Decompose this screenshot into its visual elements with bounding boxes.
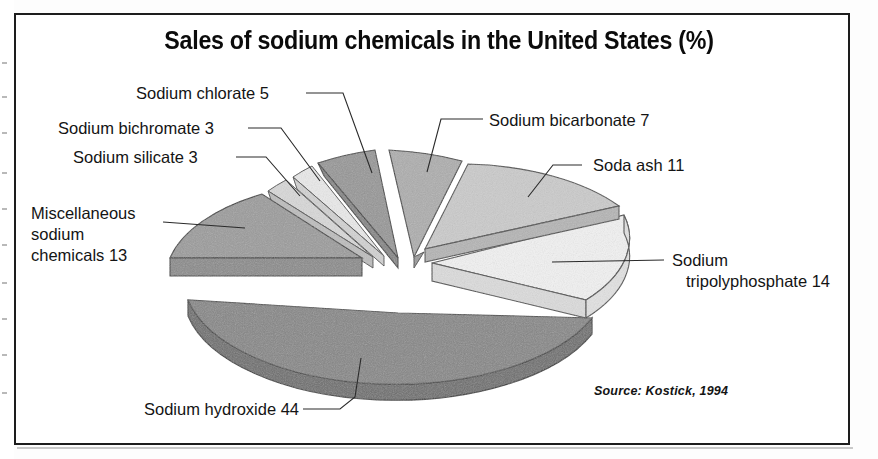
- slice-sodium-hydroxide[interactable]: [188, 300, 592, 400]
- label-soda-ash: Soda ash 11: [593, 155, 684, 175]
- pie-chart: [0, 0, 878, 459]
- label-sodium-tripolyphosphate-line1: Sodium: [672, 250, 728, 270]
- label-miscellaneous-line2: sodium: [31, 224, 84, 244]
- label-sodium-silicate: Sodium silicate 3: [73, 147, 198, 167]
- label-sodium-tripolyphosphate-line2: tripolyphosphate 14: [686, 271, 830, 291]
- label-sodium-hydroxide: Sodium hydroxide 44: [144, 399, 299, 419]
- label-miscellaneous-line1: Miscellaneous: [31, 203, 136, 223]
- label-sodium-bichromate: Sodium bichromate 3: [58, 118, 214, 138]
- label-miscellaneous-line3: chemicals 13: [31, 245, 127, 265]
- label-sodium-bicarbonate: Sodium bicarbonate 7: [489, 110, 650, 130]
- label-sodium-chlorate: Sodium chlorate 5: [136, 83, 269, 103]
- source-note: Source: Kostick, 1994: [594, 384, 728, 398]
